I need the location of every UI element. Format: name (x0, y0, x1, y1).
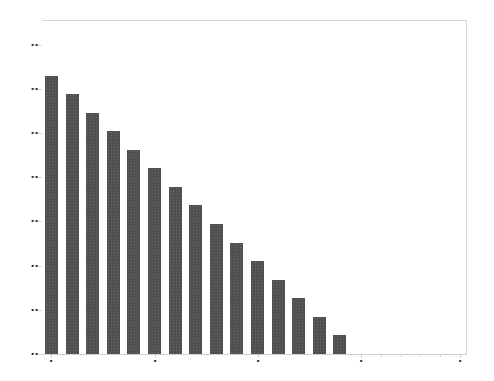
bar (66, 94, 79, 354)
bar (333, 335, 346, 354)
x-axis-line (42, 354, 467, 355)
y-tick-mark (38, 310, 42, 311)
x-minor-tick (381, 355, 382, 357)
bar (272, 280, 285, 354)
y-tick-mark (38, 45, 42, 46)
bar (45, 76, 58, 354)
bar (127, 150, 140, 354)
bar (189, 205, 202, 354)
y-tick-mark (38, 133, 42, 134)
y-tick-label: ▪·▪ (22, 175, 38, 179)
bar (210, 224, 223, 354)
bar (107, 131, 120, 354)
x-minor-tick (440, 355, 441, 357)
x-tick-label: ▪ (46, 358, 56, 363)
x-tick-label: ▪ (356, 358, 366, 363)
y-tick-mark (38, 177, 42, 178)
bar-chart: ▪·▪▪·▪▪·▪▪·▪▪·▪▪·▪▪·▪▪·▪ ▪▪▪▪▪ (0, 0, 494, 381)
y-tick-label: ▪·▪ (22, 264, 38, 268)
bar (148, 168, 161, 354)
bar (230, 243, 243, 354)
y-tick-label: ▪·▪ (22, 43, 38, 47)
x-tick-label: ▪ (150, 358, 160, 363)
y-tick-label: ▪·▪ (22, 352, 38, 356)
x-minor-tick (401, 355, 402, 357)
y-tick-mark (38, 266, 42, 267)
bar (86, 113, 99, 354)
y-tick-label: ▪·▪ (22, 219, 38, 223)
x-tick-label: ▪ (455, 358, 465, 363)
x-minor-tick (420, 355, 421, 357)
bar (292, 298, 305, 354)
y-tick-label: ▪·▪ (22, 131, 38, 135)
y-tick-mark (38, 89, 42, 90)
x-tick-label: ▪ (253, 358, 263, 363)
bar (313, 317, 326, 354)
y-tick-label: ▪·▪ (22, 308, 38, 312)
bar (169, 187, 182, 354)
bar (251, 261, 264, 354)
y-tick-mark (38, 221, 42, 222)
y-tick-label: ▪·▪ (22, 87, 38, 91)
